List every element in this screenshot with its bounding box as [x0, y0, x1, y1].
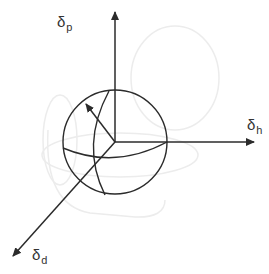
axis-label-d-symbol: δ — [32, 246, 40, 263]
axis-label-h-subscript: h — [256, 124, 262, 136]
axis-label-h: δh — [247, 117, 262, 136]
axis-label-p-subscript: p — [66, 21, 72, 33]
ghost-background-shapes — [42, 26, 219, 217]
axis-label-d-subscript: d — [41, 254, 47, 266]
sphere-meridian — [93, 91, 109, 195]
solubility-sphere-diagram — [0, 0, 269, 274]
sphere-equator — [63, 142, 167, 158]
axis-d-arrow — [13, 142, 115, 256]
axis-label-p: δp — [57, 14, 72, 33]
axis-label-p-symbol: δ — [57, 13, 65, 30]
axis-label-d: δd — [32, 247, 47, 266]
axis-label-h-symbol: δ — [247, 116, 255, 133]
